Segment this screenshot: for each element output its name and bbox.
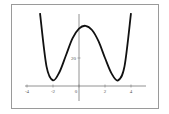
x-tick-label: 4 xyxy=(130,89,133,94)
x-tick-label: -2 xyxy=(51,89,56,94)
series-line xyxy=(40,13,131,80)
y-tick-label: 20 xyxy=(71,56,77,61)
x-tick-label: -4 xyxy=(25,89,30,94)
x-tick-label: 2 xyxy=(104,89,107,94)
chart: -4-202420 xyxy=(0,0,169,114)
axes: -4-202420 xyxy=(25,14,146,101)
x-tick-label: 0 xyxy=(75,89,78,94)
